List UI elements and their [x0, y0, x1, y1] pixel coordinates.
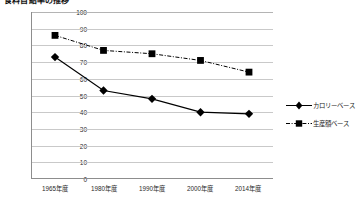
x-axis-tick-label: 1990年度 — [126, 184, 178, 193]
data-point-square — [100, 47, 107, 54]
legend-item-production-value-base: 生産額ベース — [286, 117, 355, 130]
data-point-square — [52, 32, 59, 39]
legend-label: 生産額ベース — [313, 119, 349, 128]
data-point-diamond — [148, 95, 156, 103]
x-axis-tick-label: 1980年度 — [78, 184, 130, 193]
x-axis-tick-label: 2014年度 — [222, 184, 274, 193]
chart-legend: カロリーベース 生産額ベース — [286, 99, 355, 135]
series-line — [55, 57, 249, 114]
data-point-diamond — [99, 86, 107, 94]
x-axis-tick-label: 2000年度 — [174, 184, 226, 193]
square-marker-icon — [286, 118, 312, 129]
data-point-square — [149, 50, 156, 57]
data-point-square — [246, 69, 253, 76]
data-point-diamond — [51, 53, 59, 61]
data-point-diamond — [196, 108, 204, 116]
chart-title: 食料自給率の推移 — [4, 0, 70, 5]
data-series-layer — [31, 12, 273, 179]
legend-item-calorie-base: カロリーベース — [286, 99, 355, 112]
diamond-marker-icon — [286, 100, 312, 111]
data-point-diamond — [245, 110, 253, 118]
chart-container: 食料自給率の推移 100 90 80 70 60 50 40 30 20 10 … — [0, 0, 362, 208]
legend-label: カロリーベース — [313, 101, 355, 110]
data-point-square — [197, 57, 204, 64]
x-axis-tick-label: 1965年度 — [29, 184, 81, 193]
